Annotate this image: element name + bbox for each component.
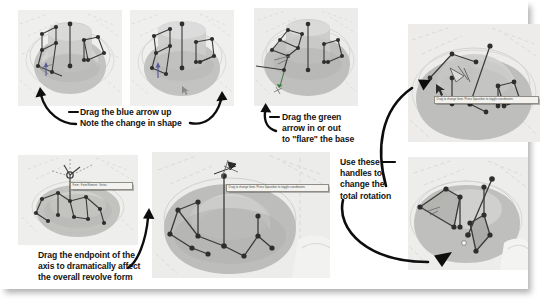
panel-revolve-form-axis-endpoint[interactable]: Form : Form Element : Vertex: [18, 155, 138, 245]
viewport-render: [18, 10, 122, 106]
callout-drag-blue-arrow: Drag the blue arrow up Note the change i…: [80, 107, 182, 129]
callout-use-handles-rotation: Use these handles to change the total ro…: [340, 157, 391, 202]
panel-revolve-form-total-rotation-handles[interactable]: [408, 157, 528, 270]
viewport-render: [408, 157, 528, 270]
figure-canvas: Drag to change form. Press Spacebar to t…: [0, 0, 540, 303]
panel-revolve-form-default[interactable]: [18, 10, 122, 106]
panel-revolve-form-blue-arrow-dragged[interactable]: [130, 10, 234, 106]
panel-revolve-form-drag-change-form-bm[interactable]: Drag to change form. Press Spacebar to t…: [152, 152, 330, 278]
callout-drag-axis-endpoint: Drag the endpoint of the axis to dramati…: [38, 250, 140, 284]
viewport-render: [408, 24, 540, 142]
viewport-render: [254, 8, 358, 106]
cursor-dot: [462, 241, 467, 246]
tooltip-drag-change-form: Drag to change form. Press Spacebar to t…: [434, 96, 539, 104]
callout-drag-green-arrow: Drag the green arrow in or out to "flare…: [282, 112, 354, 146]
viewport-render: [18, 155, 138, 245]
panel-revolve-form-green-arrow-flare[interactable]: [254, 8, 358, 106]
viewport-render: [130, 10, 234, 106]
panel-revolve-form-drag-change-form-tr[interactable]: Drag to change form. Press Spacebar to t…: [408, 24, 540, 142]
viewport-render: [152, 152, 330, 278]
tooltip-drag-change-form: Drag to change form. Press Spacebar to t…: [226, 184, 329, 192]
tooltip-form-element-vertex: Form : Form Element : Vertex: [70, 182, 133, 190]
